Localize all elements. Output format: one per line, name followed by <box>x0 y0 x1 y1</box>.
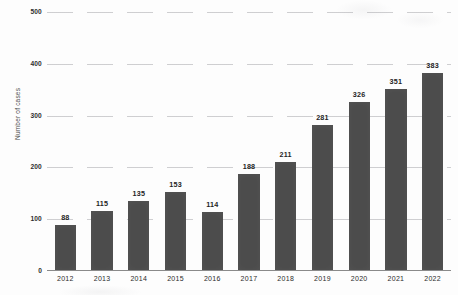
bar-group[interactable]: 88 <box>55 12 76 271</box>
bar[interactable] <box>165 192 186 271</box>
bar-group[interactable]: 351 <box>385 12 406 271</box>
bar[interactable] <box>238 174 259 271</box>
x-axis-line <box>47 270 451 271</box>
bar-value-label: 281 <box>316 113 329 122</box>
bar-group[interactable]: 188 <box>238 12 259 271</box>
y-axis-tick-label: 200 <box>8 163 42 170</box>
bar-group[interactable]: 281 <box>312 12 333 271</box>
y-axis-tick-label: 100 <box>8 215 42 222</box>
x-axis-tick-labels: 2012201320142015201620172018201920202021… <box>47 275 451 291</box>
bar-value-label: 351 <box>390 77 403 86</box>
bar-group[interactable]: 383 <box>422 12 443 271</box>
x-axis-tick-label: 2022 <box>424 275 441 282</box>
bar[interactable] <box>55 225 76 271</box>
bar[interactable] <box>312 125 333 271</box>
x-axis-tick-label: 2020 <box>351 275 368 282</box>
bar-value-label: 88 <box>61 213 69 222</box>
x-axis-tick-label: 2019 <box>314 275 331 282</box>
bar-value-label: 135 <box>133 189 146 198</box>
bar-value-label: 115 <box>96 199 108 208</box>
bar[interactable] <box>275 162 296 271</box>
bar-value-label: 188 <box>243 162 256 171</box>
bar[interactable] <box>422 73 443 271</box>
y-axis-tick-label: 0 <box>8 267 42 274</box>
bar-value-label: 153 <box>169 180 182 189</box>
bar-group[interactable]: 135 <box>128 12 149 271</box>
y-axis-tick-label: 300 <box>8 112 42 119</box>
x-axis-tick-label: 2018 <box>277 275 294 282</box>
bar-value-label: 326 <box>353 90 366 99</box>
x-axis-tick-label: 2013 <box>94 275 111 282</box>
x-axis-tick-label: 2016 <box>204 275 221 282</box>
bar-group[interactable]: 115 <box>91 12 112 271</box>
bar[interactable] <box>91 211 112 271</box>
y-axis-tick-labels: 0100200300400500 <box>0 12 42 271</box>
x-axis-tick-label: 2012 <box>57 275 74 282</box>
bar-group[interactable]: 114 <box>202 12 223 271</box>
plot-area: 88115135153114188211281326351383 <box>47 12 451 271</box>
bars-layer: 88115135153114188211281326351383 <box>47 12 451 271</box>
bar[interactable] <box>202 212 223 271</box>
y-axis-tick-label: 400 <box>8 60 42 67</box>
y-axis-tick-label: 500 <box>8 8 42 15</box>
bar-value-label: 383 <box>426 61 439 70</box>
bar-chart: Number of cases 0100200300400500 8811513… <box>0 0 458 295</box>
bar[interactable] <box>349 102 370 271</box>
bar-group[interactable]: 211 <box>275 12 296 271</box>
bar-value-label: 114 <box>206 200 218 209</box>
x-axis-tick-label: 2017 <box>241 275 258 282</box>
bar[interactable] <box>128 201 149 271</box>
bar-group[interactable]: 153 <box>165 12 186 271</box>
bar-group[interactable]: 326 <box>349 12 370 271</box>
bar-value-label: 211 <box>280 150 292 159</box>
x-axis-tick-label: 2021 <box>388 275 405 282</box>
x-axis-tick-label: 2014 <box>130 275 147 282</box>
x-axis-tick-label: 2015 <box>167 275 184 282</box>
bar[interactable] <box>385 89 406 271</box>
